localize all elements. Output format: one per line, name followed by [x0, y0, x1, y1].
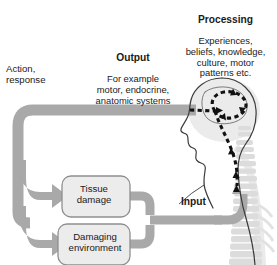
- label-input: Input: [181, 196, 227, 207]
- label-processing-body: Experiences, beliefs, knowledge, culture…: [186, 35, 266, 78]
- label-processing-heading: Processing: [176, 14, 275, 25]
- input-stub-tissue: [128, 196, 150, 215]
- skeleton-group: [188, 78, 274, 265]
- label-output-body: For example motor, endocrine, anatomic s…: [95, 73, 170, 105]
- label-action-response: Action, response: [6, 64, 74, 85]
- label-output-heading: Output: [84, 52, 182, 63]
- input-stub-damaging: [128, 225, 150, 244]
- node-box-tissue-damage: [62, 176, 130, 217]
- branch-arrow-tissue: [18, 160, 68, 208]
- label-processing: Processing Experiences, beliefs, knowled…: [176, 3, 275, 79]
- label-output: Output For example motor, endocrine, ana…: [84, 41, 182, 106]
- diagram-canvas: Processing Experiences, beliefs, knowled…: [0, 0, 277, 265]
- node-boxes: [58, 176, 130, 265]
- node-box-damaging-environment: [58, 224, 130, 265]
